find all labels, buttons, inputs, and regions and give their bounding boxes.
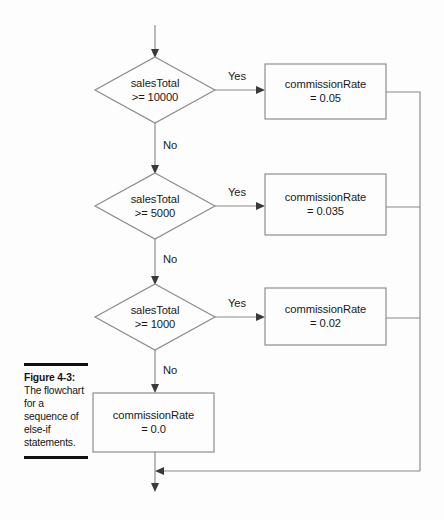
decision-node-1[interactable]: salesTotal >= 10000 — [95, 57, 215, 123]
caption-rule-bottom — [24, 456, 88, 459]
caption-rule-top — [24, 363, 88, 366]
edge-label-no-3: No — [163, 364, 177, 376]
edge-decision1-no: No — [151, 123, 177, 174]
edge-decision3-yes: Yes — [215, 297, 265, 321]
decision-node-1-line2: >= 10000 — [132, 91, 179, 103]
figure-caption: Figure 4-3: The flowchart for a sequence… — [24, 363, 90, 459]
edge-process1-to-bus — [386, 92, 420, 471]
process-node-2-line2: = 0.035 — [307, 205, 344, 217]
process-node-3-line1: commissionRate — [285, 303, 366, 315]
process-node-4-line1: commissionRate — [113, 409, 194, 421]
process-node-3[interactable]: commissionRate = 0.02 — [265, 288, 386, 345]
caption-description: The flowchart for a sequence of else-if … — [24, 385, 84, 448]
process-node-3-line2: = 0.02 — [310, 317, 341, 329]
process-node-4-line2: = 0.0 — [141, 423, 166, 435]
process-node-1[interactable]: commissionRate = 0.05 — [265, 64, 386, 119]
caption-text: Figure 4-3: The flowchart for a sequence… — [24, 371, 90, 450]
decision-node-3-line2: >= 1000 — [135, 318, 175, 330]
decision-node-2-line1: salesTotal — [131, 193, 180, 205]
edge-decision3-no: No — [151, 350, 177, 393]
process-node-1-line1: commissionRate — [285, 78, 366, 90]
edge-label-yes-2: Yes — [228, 186, 246, 198]
decision-node-3[interactable]: salesTotal >= 1000 — [95, 284, 215, 350]
process-node-2[interactable]: commissionRate = 0.035 — [265, 174, 386, 235]
edge-decision2-yes: Yes — [215, 186, 265, 210]
edge-label-yes-3: Yes — [228, 297, 246, 309]
decision-node-3-line1: salesTotal — [131, 304, 180, 316]
edge-label-yes-1: Yes — [228, 70, 246, 82]
edge-bus-to-merge — [155, 467, 420, 475]
edge-merge-exit — [151, 483, 159, 492]
edge-label-no-2: No — [163, 253, 177, 265]
edge-entry-to-decision1 — [151, 25, 159, 58]
process-node-4[interactable]: commissionRate = 0.0 — [93, 393, 214, 452]
decision-node-2[interactable]: salesTotal >= 5000 — [95, 173, 215, 239]
figure-page: salesTotal >= 10000 Yes commissionRate =… — [0, 0, 444, 520]
decision-node-2-line2: >= 5000 — [135, 207, 175, 219]
edge-decision1-yes: Yes — [215, 70, 265, 94]
decision-node-1-line1: salesTotal — [131, 77, 180, 89]
process-node-2-line1: commissionRate — [285, 191, 366, 203]
process-node-1-line2: = 0.05 — [310, 92, 341, 104]
edge-decision2-no: No — [151, 239, 177, 285]
caption-figure-number: Figure 4-3: — [24, 372, 75, 383]
edge-label-no-1: No — [163, 139, 177, 151]
